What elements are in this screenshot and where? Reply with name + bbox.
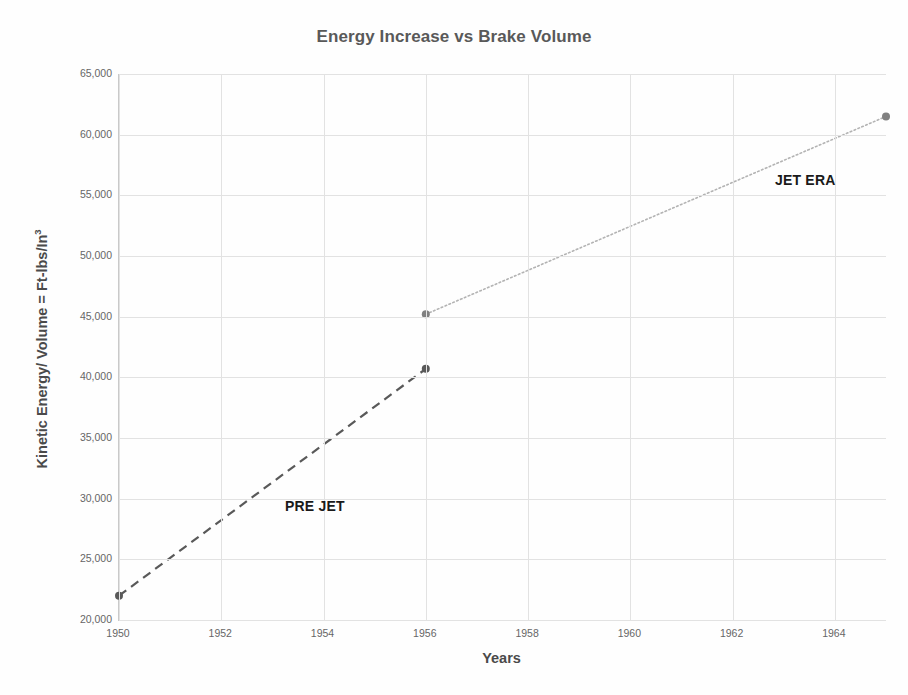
y-tick-label: 50,000 — [42, 249, 112, 261]
x-tick-label: 1964 — [804, 627, 864, 639]
gridline-horizontal — [119, 195, 886, 196]
gridline-horizontal — [119, 135, 886, 136]
plot-area — [118, 74, 886, 621]
y-tick-label: 40,000 — [42, 370, 112, 382]
x-tick-label: 1952 — [190, 627, 250, 639]
y-tick-label: 25,000 — [42, 552, 112, 564]
series-line-jet-era — [426, 116, 886, 314]
gridline-vertical — [119, 74, 120, 620]
x-tick-label: 1962 — [702, 627, 762, 639]
gridline-horizontal — [119, 438, 886, 439]
y-tick-label: 35,000 — [42, 431, 112, 443]
x-tick-label: 1950 — [88, 627, 148, 639]
annotation-pre-jet: PRE JET — [285, 498, 345, 514]
gridline-horizontal — [119, 559, 886, 560]
gridline-vertical — [630, 74, 631, 620]
gridline-vertical — [733, 74, 734, 620]
gridline-horizontal — [119, 256, 886, 257]
x-tick-label: 1960 — [599, 627, 659, 639]
series-layer — [119, 74, 886, 620]
gridline-vertical — [426, 74, 427, 620]
gridline-vertical — [528, 74, 529, 620]
gridline-horizontal — [119, 620, 886, 621]
gridline-horizontal — [119, 499, 886, 500]
y-axis-tick-labels: 20,00025,00030,00035,00040,00045,00050,0… — [38, 74, 112, 620]
gridline-horizontal — [119, 317, 886, 318]
x-tick-label: 1954 — [293, 627, 353, 639]
gridline-horizontal — [119, 74, 886, 75]
x-axis-tick-labels: 19501952195419561958196019621964 — [118, 622, 885, 644]
y-tick-label: 65,000 — [42, 67, 112, 79]
x-tick-label: 1956 — [395, 627, 455, 639]
gridline-vertical — [324, 74, 325, 620]
data-point-marker — [882, 112, 890, 120]
y-tick-label: 60,000 — [42, 128, 112, 140]
gridline-vertical — [221, 74, 222, 620]
series-line-pre-jet — [119, 369, 426, 596]
y-tick-label: 30,000 — [42, 492, 112, 504]
chart-title: Energy Increase vs Brake Volume — [0, 27, 908, 47]
y-tick-label: 55,000 — [42, 188, 112, 200]
gridline-horizontal — [119, 377, 886, 378]
gridline-vertical — [835, 74, 836, 620]
x-axis-title: Years — [118, 650, 885, 666]
y-tick-label: 45,000 — [42, 310, 112, 322]
chart-container: Energy Increase vs Brake Volume Kinetic … — [0, 0, 908, 695]
x-tick-label: 1958 — [497, 627, 557, 639]
y-tick-label: 20,000 — [42, 613, 112, 625]
annotation-jet-era: JET ERA — [775, 172, 836, 188]
